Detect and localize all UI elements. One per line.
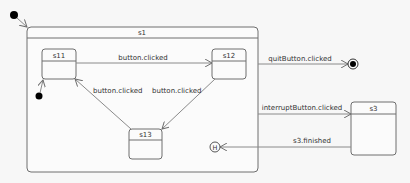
s13-name: s13 — [139, 131, 152, 139]
transition-label: s3.finished — [293, 137, 331, 145]
transition-label: button.clicked — [93, 87, 142, 95]
s3-name: s3 — [369, 105, 377, 113]
initial-dot-icon — [36, 93, 43, 100]
transition-label: button.clicked — [152, 87, 201, 95]
initial-transition-edge[interactable] — [17, 18, 27, 27]
state-s12[interactable]: s12 — [212, 49, 246, 79]
transition-s1-final[interactable]: quitButton.clicked — [258, 55, 348, 64]
history-label: H — [213, 144, 218, 152]
transition-s1-s3[interactable]: interruptButton.clicked — [258, 104, 351, 114]
transition-label: interruptButton.clicked — [262, 104, 343, 112]
state-s11[interactable]: s11 — [42, 49, 76, 79]
final-state[interactable] — [348, 59, 358, 69]
s12-name: s12 — [223, 52, 236, 60]
s1-name: s1 — [138, 29, 146, 37]
final-state-dot-icon — [350, 61, 356, 67]
transition-label: quitButton.clicked — [268, 55, 331, 63]
initial-state-outer[interactable] — [10, 11, 27, 27]
state-diagram: s1 s11 s12 s13 button.clicked button.cli… — [0, 0, 410, 183]
history-pseudostate[interactable]: H — [210, 142, 220, 152]
initial-dot-icon — [10, 11, 18, 19]
state-s3[interactable]: s3 — [351, 102, 396, 155]
transition-label: button.clicked — [118, 54, 167, 62]
s11-name: s11 — [53, 52, 66, 60]
state-s13[interactable]: s13 — [129, 129, 162, 159]
